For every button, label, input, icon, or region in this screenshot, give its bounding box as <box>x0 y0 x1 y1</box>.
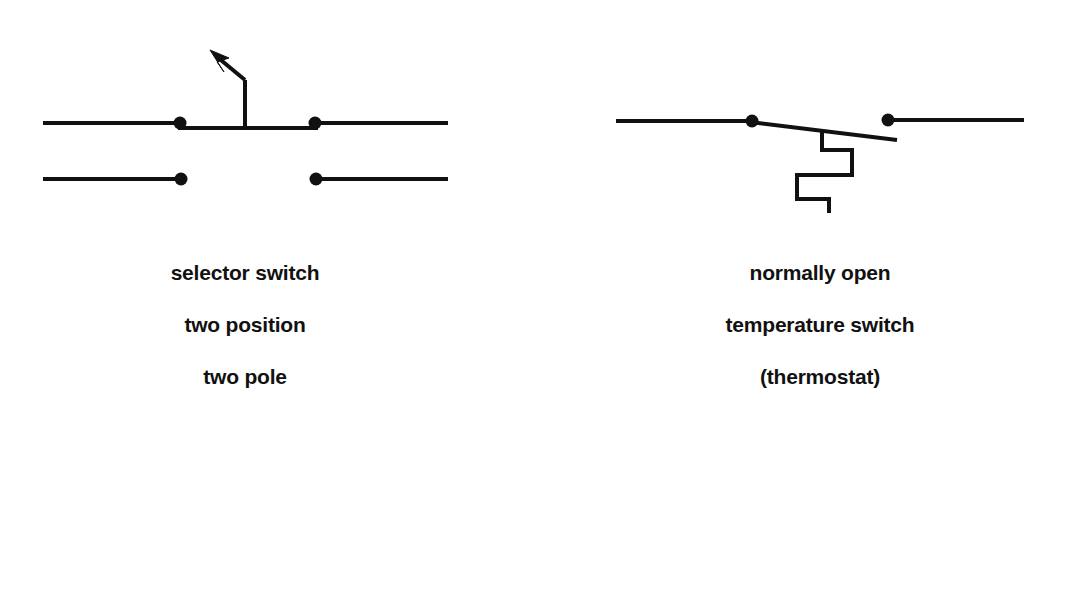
thermostat-pivot-dot <box>746 115 759 128</box>
selector-switch-symbol <box>43 50 448 186</box>
caption-selector-switch-line-3: two pole <box>95 364 395 390</box>
caption-thermostat-line-3: (thermostat) <box>675 364 965 390</box>
lower-right-contact-dot <box>310 173 323 186</box>
caption-selector-switch-line-2: two position <box>95 312 395 338</box>
thermostat-symbol <box>616 114 1024 214</box>
thermostat-terminal-dot <box>882 114 895 127</box>
diagram-canvas: selector switch two position two pole no… <box>0 0 1072 593</box>
caption-selector-switch: selector switch two position two pole <box>95 234 395 416</box>
actuator-arrow-head <box>210 50 229 72</box>
bimetallic-zigzag-strip <box>797 132 852 213</box>
caption-thermostat: normally open temperature switch (thermo… <box>675 234 965 416</box>
caption-thermostat-line-1: normally open <box>675 260 965 286</box>
lower-left-contact-dot <box>175 173 188 186</box>
caption-thermostat-line-2: temperature switch <box>675 312 965 338</box>
upper-right-contact-dot <box>309 117 322 130</box>
caption-selector-switch-line-1: selector switch <box>95 260 395 286</box>
upper-left-contact-dot <box>174 117 187 130</box>
